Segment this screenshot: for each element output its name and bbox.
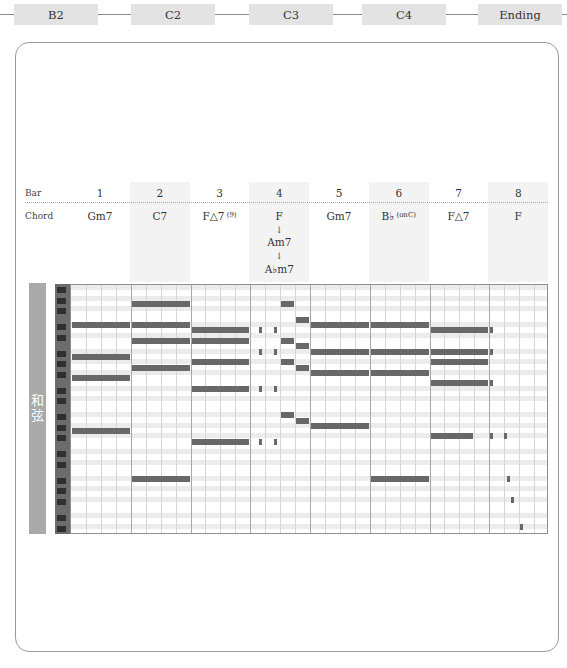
- grid-row-shade: [71, 460, 547, 465]
- bar-number-7: 7: [429, 187, 489, 199]
- chord-name: F△7: [447, 210, 469, 222]
- grid-row-shade: [71, 412, 547, 417]
- beat-line: [205, 285, 206, 533]
- section-tab-c3[interactable]: C3: [249, 4, 333, 25]
- note-block: [371, 349, 429, 355]
- grid-row-shade: [71, 306, 547, 311]
- note-block: [281, 338, 294, 344]
- black-key: [57, 298, 66, 304]
- chord-name: F△7: [202, 210, 224, 222]
- note-block: [259, 349, 262, 355]
- note-block: [507, 476, 510, 482]
- chord-row-label: Chord: [25, 211, 53, 221]
- black-key: [57, 335, 66, 341]
- grid-row-shade: [71, 449, 547, 454]
- note-block: [192, 338, 250, 344]
- note-block: [311, 322, 369, 328]
- black-key: [57, 308, 66, 314]
- black-key: [57, 435, 66, 441]
- header-divider: [25, 202, 548, 203]
- black-key: [57, 499, 66, 505]
- grid-row-shade: [71, 486, 547, 491]
- black-key: [57, 324, 66, 330]
- chord-name: Gm7: [87, 210, 112, 222]
- black-key: [57, 488, 66, 494]
- black-key: [57, 388, 66, 394]
- note-block: [72, 375, 130, 381]
- note-block: [431, 433, 474, 439]
- note-block: [192, 359, 250, 365]
- chord-name: Gm7: [326, 210, 351, 222]
- bar-number-8: 8: [488, 187, 548, 199]
- note-block: [511, 497, 514, 503]
- black-key: [57, 425, 66, 431]
- note-block: [281, 412, 294, 418]
- note-block: [520, 524, 523, 530]
- section-tab-c2[interactable]: C2: [131, 4, 215, 25]
- note-block: [431, 349, 489, 355]
- note-block: [132, 476, 190, 482]
- note-block: [132, 365, 190, 371]
- note-block: [281, 359, 294, 365]
- grid-row-shade: [71, 396, 547, 401]
- note-block: [296, 418, 309, 424]
- grid-row-shade: [71, 386, 547, 391]
- chord-name: F: [515, 210, 522, 222]
- section-tab-b2[interactable]: B2: [14, 4, 98, 25]
- chord-bar-7: F△7: [429, 210, 489, 223]
- grid-row-shade: [71, 524, 547, 529]
- bar-number-3: 3: [190, 187, 250, 199]
- chord-bar-6: B♭ (onC): [369, 210, 429, 223]
- bar-line: [250, 285, 251, 533]
- beat-line: [474, 285, 475, 533]
- chord-extension: (9): [224, 211, 236, 219]
- beat-line: [519, 285, 520, 533]
- note-block: [274, 349, 277, 355]
- bar-line: [191, 285, 192, 533]
- note-block: [371, 476, 429, 482]
- chord-name: A♭m7: [265, 263, 294, 275]
- black-key: [57, 372, 66, 378]
- section-tab-c4[interactable]: C4: [362, 4, 446, 25]
- note-block: [490, 380, 493, 386]
- black-key: [57, 414, 66, 420]
- note-block: [72, 354, 130, 360]
- note-block: [132, 301, 190, 307]
- bar-number-4: 4: [249, 187, 309, 199]
- note-block: [192, 386, 250, 392]
- chord-name: Am7: [267, 236, 291, 248]
- chord-bar-1: Gm7: [70, 210, 130, 223]
- piano-roll-grid: [70, 284, 548, 534]
- note-block: [490, 349, 493, 355]
- beat-line: [504, 285, 505, 533]
- chord-name: B♭: [382, 210, 395, 222]
- section-tab-ending[interactable]: Ending: [478, 4, 562, 25]
- beat-line: [459, 285, 460, 533]
- bar-line: [489, 285, 490, 533]
- grid-row-shade: [71, 513, 547, 518]
- black-key: [57, 478, 66, 484]
- note-block: [371, 370, 429, 376]
- note-block: [72, 322, 130, 328]
- note-block: [274, 386, 277, 392]
- note-block: [504, 433, 507, 439]
- chord-name: C7: [152, 210, 167, 222]
- bar-number-2: 2: [130, 187, 190, 199]
- beat-line: [265, 285, 266, 533]
- grid-row-shade: [71, 296, 547, 301]
- note-block: [311, 349, 369, 355]
- note-block: [192, 327, 250, 333]
- note-block: [259, 439, 262, 445]
- black-key: [57, 451, 66, 457]
- chord-bar-3: F△7 (9): [190, 210, 250, 223]
- chord-bar-2: C7: [130, 210, 190, 223]
- black-key: [57, 361, 66, 367]
- note-block: [72, 428, 130, 434]
- grid-row-shade: [71, 370, 547, 375]
- bar-row-label: Bar: [25, 188, 41, 198]
- grid-row-shade: [71, 423, 547, 428]
- note-block: [132, 338, 190, 344]
- chord-bar-4: F↓Am7↓A♭m7: [249, 210, 309, 276]
- down-arrow-icon: ↓: [275, 251, 283, 261]
- side-label-char-1: 和: [31, 394, 44, 409]
